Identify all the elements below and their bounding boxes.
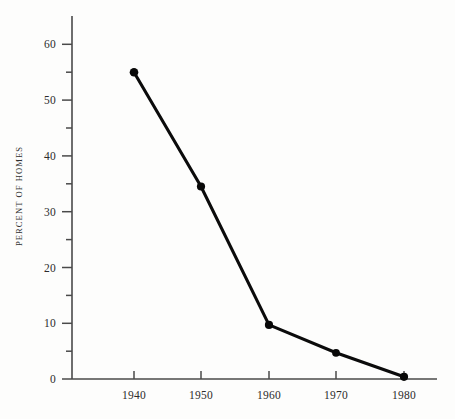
y-axis-major-ticks xyxy=(62,44,72,379)
chart-plot-area xyxy=(0,0,455,419)
series-line-percent-of-homes xyxy=(134,72,404,377)
series-markers xyxy=(130,68,408,381)
data-point-1950 xyxy=(197,182,205,190)
data-point-1960 xyxy=(265,321,273,329)
y-tick-label-50: 50 xyxy=(34,94,56,106)
x-axis-ticks xyxy=(134,371,404,379)
data-point-1940 xyxy=(130,68,139,77)
x-tick-label-1940: 1940 xyxy=(122,389,146,401)
y-tick-label-30: 30 xyxy=(34,206,56,218)
x-tick-label-1960: 1960 xyxy=(257,389,281,401)
y-tick-label-0: 0 xyxy=(34,373,56,385)
y-tick-label-60: 60 xyxy=(34,38,56,50)
y-tick-label-10: 10 xyxy=(34,317,56,329)
x-tick-label-1970: 1970 xyxy=(324,389,348,401)
x-tick-label-1980: 1980 xyxy=(392,389,416,401)
line-chart-figure: 60 50 40 30 20 10 0 1940 1950 1960 1970 … xyxy=(0,0,455,419)
y-tick-label-40: 40 xyxy=(34,150,56,162)
data-point-1970 xyxy=(332,349,340,357)
y-tick-label-20: 20 xyxy=(34,262,56,274)
data-point-1980 xyxy=(400,373,408,381)
y-axis-title: PERCENT OF HOMES xyxy=(14,146,24,246)
x-tick-label-1950: 1950 xyxy=(189,389,213,401)
